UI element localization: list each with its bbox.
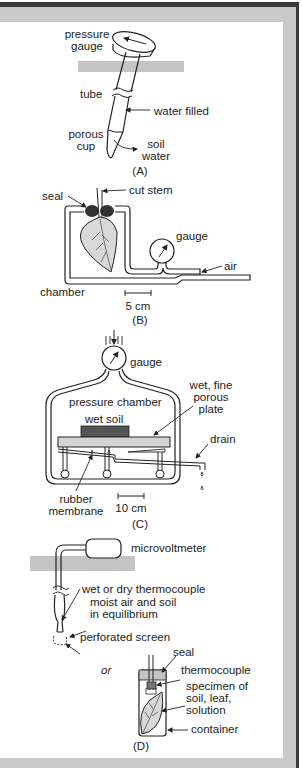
label-chamber: chamber — [40, 286, 85, 298]
label-soil-water: soil water — [136, 138, 176, 162]
ground-surface — [78, 61, 184, 72]
label-wet-fine-porous-plate: wet, fine porous plate — [186, 379, 236, 415]
label-perforated-screen: perforated screen — [80, 631, 170, 643]
label-pressure-gauge: pressure gauge — [62, 28, 112, 52]
label-thermocouple: thermocouple — [181, 664, 251, 676]
label-pressure-chamber: pressure chamber — [69, 396, 162, 408]
ground-surface — [30, 556, 135, 571]
label-tube: tube — [80, 88, 102, 100]
label-seal: seal — [42, 190, 63, 202]
caption-c: (C) — [120, 518, 160, 530]
label-cut-stem: cut stem — [129, 184, 172, 196]
label-gauge-b: gauge — [176, 230, 208, 242]
diagram-artwork — [0, 0, 302, 768]
label-porous-cup: porous cup — [66, 128, 106, 152]
label-rubber-membrane: rubber membrane — [48, 493, 104, 517]
label-drain: drain — [210, 433, 236, 445]
panel-b-pressure-chamber — [65, 188, 250, 296]
label-moist-air: moist air and soil in equilibrium — [90, 596, 176, 620]
caption-b: (B) — [120, 314, 160, 326]
label-water-filled: water filled — [154, 105, 209, 117]
scale-5cm: 5 cm — [118, 300, 158, 312]
label-microvoltmeter: microvoltmeter — [131, 542, 206, 554]
panel-c-pressure-plate — [46, 330, 208, 499]
label-container: container — [191, 723, 238, 735]
label-seal-d: seal — [173, 646, 194, 658]
label-or: or — [101, 664, 111, 676]
label-wet-soil: wet soil — [85, 413, 123, 425]
label-air: air — [224, 260, 237, 272]
scale-10cm: 10 cm — [111, 502, 151, 514]
caption-a: (A) — [120, 165, 160, 177]
label-gauge-c: gauge — [130, 356, 162, 368]
caption-d: (D) — [121, 740, 161, 752]
label-specimen: specimen of soil, leaf, solution — [186, 680, 248, 716]
label-wet-or-dry-thermocouple: wet or dry thermocouple — [82, 583, 205, 595]
